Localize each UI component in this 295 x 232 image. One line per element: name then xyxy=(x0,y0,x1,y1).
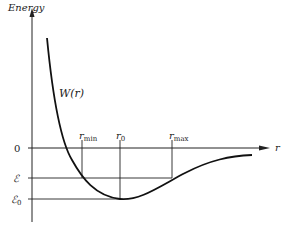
potential-curve xyxy=(47,38,252,199)
zero-tick-label: 0 xyxy=(14,143,20,154)
potential-energy-diagram: Energy r W(r) 0 ℰ ℰ0 rmin r0 rmax xyxy=(0,0,295,232)
y-axis-label: Energy xyxy=(7,2,45,13)
r0-label: r0 xyxy=(116,130,125,143)
ground-energy-tick-label: ℰ0 xyxy=(11,194,21,207)
x-axis-arrow-icon xyxy=(259,146,270,151)
curve-label: W(r) xyxy=(59,87,84,100)
energy-tick-label: ℰ xyxy=(13,173,20,184)
x-axis-label: r xyxy=(275,142,281,153)
